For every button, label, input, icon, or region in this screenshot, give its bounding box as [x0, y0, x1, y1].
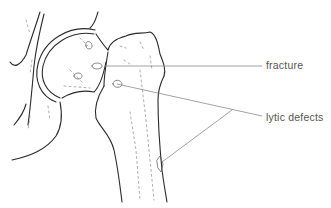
lytic-leader-shaft: [162, 110, 232, 162]
lytic-leader-neck: [117, 84, 262, 116]
head-defect-1: [86, 42, 92, 50]
femur-medial-cortex: [95, 86, 122, 202]
ilium-edge: [90, 12, 98, 28]
diagram-drawing: [0, 0, 331, 208]
pubis-inner: [14, 104, 26, 125]
lytic-defects-label: lytic defects: [266, 111, 323, 123]
pelvis: [10, 12, 98, 160]
femoral-head-outline: [62, 62, 106, 98]
femoral-head: [37, 29, 108, 102]
head-defect-2: [92, 63, 102, 69]
femur-texture-2: [130, 112, 140, 200]
femur: [95, 32, 167, 202]
pubis-outline: [12, 102, 61, 160]
femoral-neck-edge: [96, 34, 108, 50]
greater-trochanter-outline: [108, 32, 165, 76]
leader-lines: [104, 66, 262, 162]
hip-femur-diagram: fracture lytic defects: [0, 0, 331, 208]
pelvis-outline-inner: [28, 14, 44, 125]
fracture-label: fracture: [266, 59, 303, 71]
